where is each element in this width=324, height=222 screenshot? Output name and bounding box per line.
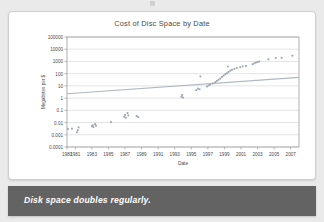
data-point bbox=[228, 71, 230, 73]
y-tick-label: 0.001 bbox=[52, 133, 64, 138]
x-tick-label: 2001 bbox=[236, 152, 247, 157]
data-point bbox=[124, 114, 126, 116]
data-point bbox=[214, 81, 216, 83]
data-point bbox=[257, 61, 259, 63]
y-tick-label: 100000 bbox=[48, 35, 64, 40]
data-point bbox=[245, 65, 247, 67]
data-point bbox=[95, 125, 97, 127]
data-point bbox=[233, 68, 235, 70]
data-point bbox=[195, 89, 197, 91]
data-point bbox=[71, 128, 73, 130]
data-point bbox=[275, 57, 277, 59]
x-tick-label: 2005 bbox=[269, 152, 280, 157]
chart-card: Cost of Disc Space by Date 1000001000010… bbox=[8, 11, 316, 180]
x-tick-label: 1997 bbox=[203, 152, 214, 157]
screenshot-root: Cost of Disc Space by Date 1000001000010… bbox=[0, 0, 324, 222]
data-point bbox=[136, 115, 138, 117]
x-tick-label: 1987 bbox=[120, 152, 131, 157]
data-point bbox=[137, 116, 139, 118]
data-point bbox=[226, 72, 228, 74]
caption-bar: Disk space doubles regularly. bbox=[8, 186, 316, 216]
data-point bbox=[93, 126, 95, 128]
x-tick-label: 1981 bbox=[70, 152, 81, 157]
data-point bbox=[212, 82, 214, 84]
y-tick-label: 0.0001 bbox=[49, 145, 63, 150]
data-point bbox=[78, 127, 80, 129]
data-point bbox=[92, 124, 94, 126]
top-edge-artifact bbox=[150, 1, 155, 6]
data-point bbox=[77, 129, 79, 131]
x-tick-label: 2007 bbox=[286, 152, 297, 157]
data-point bbox=[180, 96, 182, 98]
y-tick-label: 10000 bbox=[50, 47, 63, 52]
data-point bbox=[223, 75, 225, 77]
data-point bbox=[127, 112, 129, 114]
data-point bbox=[199, 88, 201, 90]
chart-frame bbox=[67, 37, 299, 147]
x-tick-label: 1999 bbox=[219, 152, 230, 157]
data-point bbox=[76, 131, 78, 133]
data-point bbox=[123, 116, 125, 118]
data-point bbox=[208, 84, 210, 86]
data-point bbox=[110, 121, 112, 123]
x-tick-label: 2003 bbox=[252, 152, 263, 157]
data-point bbox=[181, 94, 183, 96]
chart-svg: 1000001000010001001010.10.010.0010.0001 … bbox=[9, 12, 317, 181]
x-tick-label: 1993 bbox=[170, 152, 181, 157]
chart-y-axis-label: Megabytes per $ bbox=[41, 74, 46, 109]
data-point bbox=[206, 86, 208, 88]
y-tick-label: 1 bbox=[60, 96, 63, 101]
data-point bbox=[239, 66, 241, 68]
chart-x-tick-labels: 1980198119831985198719891991199319951997… bbox=[62, 152, 296, 157]
data-point bbox=[197, 88, 199, 90]
chart-x-axis-label: Date bbox=[178, 161, 188, 166]
data-point bbox=[252, 63, 254, 65]
y-tick-label: 1000 bbox=[53, 59, 64, 64]
data-point bbox=[227, 66, 229, 68]
data-point bbox=[236, 67, 238, 69]
y-tick-label: 100 bbox=[55, 72, 63, 77]
y-tick-label: 0.1 bbox=[57, 108, 64, 113]
data-point bbox=[67, 128, 69, 130]
caption-text: Disk space doubles regularly. bbox=[24, 195, 151, 205]
x-tick-label: 1985 bbox=[103, 152, 114, 157]
chart-trend-line bbox=[67, 77, 299, 93]
data-point bbox=[229, 70, 231, 72]
data-point bbox=[125, 117, 127, 119]
data-point bbox=[182, 97, 184, 99]
data-point bbox=[216, 80, 218, 82]
data-point bbox=[267, 58, 269, 60]
data-point bbox=[242, 65, 244, 67]
chart-data-points bbox=[67, 55, 293, 133]
data-point bbox=[200, 75, 202, 77]
chart-gridlines bbox=[65, 37, 300, 150]
data-point bbox=[218, 79, 220, 81]
data-point bbox=[291, 55, 293, 57]
x-tick-label: 1983 bbox=[87, 152, 98, 157]
data-point bbox=[253, 62, 255, 64]
data-point bbox=[221, 76, 223, 78]
data-point bbox=[231, 69, 233, 71]
data-point bbox=[224, 73, 226, 75]
x-tick-label: 1995 bbox=[186, 152, 197, 157]
x-tick-label: 1989 bbox=[136, 152, 147, 157]
y-tick-label: 10 bbox=[58, 84, 64, 89]
data-point bbox=[209, 84, 211, 86]
data-point bbox=[255, 62, 257, 64]
chart-plot-area: 1000001000010001001010.10.010.0010.0001 … bbox=[9, 12, 317, 181]
data-point bbox=[281, 57, 283, 59]
data-point bbox=[94, 123, 96, 125]
chart-y-tick-labels: 1000001000010001001010.10.010.0010.0001 bbox=[48, 35, 64, 150]
y-tick-label: 0.01 bbox=[54, 121, 63, 126]
data-point bbox=[127, 115, 129, 117]
x-tick-label: 1991 bbox=[153, 152, 164, 157]
data-point bbox=[219, 78, 221, 80]
data-point bbox=[258, 61, 260, 63]
